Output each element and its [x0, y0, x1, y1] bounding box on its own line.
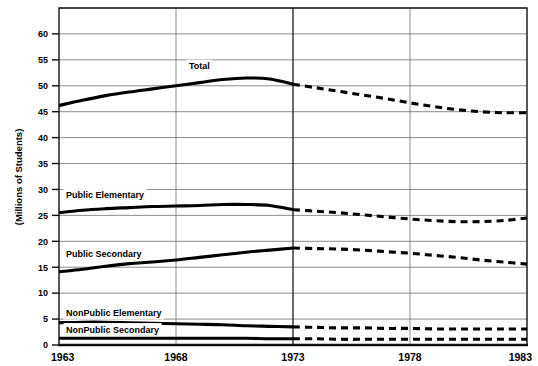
x-axis-ticks: 19631968197319781983	[51, 351, 532, 363]
y-tick-label: 10	[38, 288, 48, 298]
series-label: NonPublic Elementary	[66, 308, 162, 318]
y-tick-label: 55	[38, 55, 48, 65]
series-label: NonPublic Secondary	[66, 325, 159, 335]
y-tick-label: 40	[38, 133, 48, 143]
y-axis-title: (Millions of Students)	[13, 129, 24, 226]
y-tick-label: 45	[38, 107, 48, 117]
x-tick-label: 1973	[281, 351, 305, 363]
series-line-actual	[59, 338, 293, 339]
y-tick-label: 20	[38, 237, 48, 247]
y-tick-label: 30	[38, 185, 48, 195]
y-axis-ticks: 051015202530354045505560	[38, 29, 59, 350]
series-label: Public Secondary	[66, 249, 142, 259]
gridlines	[59, 8, 527, 345]
y-tick-label: 50	[38, 81, 48, 91]
y-tick-label: 0	[43, 340, 48, 350]
y-tick-label: 5	[43, 314, 48, 324]
y-tick-label: 35	[38, 159, 48, 169]
chart-container: (Millions of Students) 05101520253035404…	[0, 0, 538, 366]
x-tick-label: 1978	[398, 351, 422, 363]
x-tick-label: 1968	[164, 351, 188, 363]
y-axis-title-group: (Millions of Students)	[13, 129, 24, 226]
x-tick-label: 1983	[509, 351, 533, 363]
series-label: Public Elementary	[66, 190, 144, 200]
y-tick-label: 15	[38, 263, 48, 273]
x-tick-label: 1963	[51, 351, 75, 363]
line-chart: (Millions of Students) 05101520253035404…	[0, 0, 538, 366]
y-tick-label: 25	[38, 211, 48, 221]
y-tick-label: 60	[38, 29, 48, 39]
series-label: Total	[189, 61, 210, 71]
